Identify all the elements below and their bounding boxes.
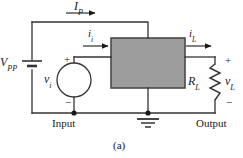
- label-input-voltage: vi: [44, 73, 52, 89]
- load-resistor-symbol: [210, 64, 220, 100]
- node-dot-input: [71, 110, 76, 115]
- node-dot-ground: [145, 110, 150, 115]
- polarity-input-minus: −: [65, 97, 71, 108]
- label-load-current: iL: [189, 28, 196, 42]
- label-load-resistor: RL: [188, 75, 200, 91]
- label-output-terminal: Output: [196, 118, 227, 129]
- label-load-voltage: vL: [225, 75, 235, 91]
- label-supply-voltage: VPP: [0, 56, 17, 72]
- battery-symbol: [22, 61, 42, 66]
- polarity-output-plus: +: [225, 55, 231, 66]
- input-source-symbol: [57, 63, 91, 97]
- circuit-schematic: [0, 0, 243, 158]
- label-input-terminal: Input: [52, 118, 75, 129]
- ground-symbol: [137, 119, 159, 127]
- figure-caption: (a): [113, 139, 125, 151]
- amplifier-block: [111, 38, 185, 88]
- label-input-current: ii: [88, 28, 93, 42]
- polarity-output-minus: −: [226, 97, 232, 108]
- circuit-figure: IP ii iL VPP vi RL vL + − + − Input Outp…: [0, 0, 243, 158]
- polarity-input-plus: +: [64, 54, 70, 65]
- label-supply-current: IP: [74, 0, 83, 16]
